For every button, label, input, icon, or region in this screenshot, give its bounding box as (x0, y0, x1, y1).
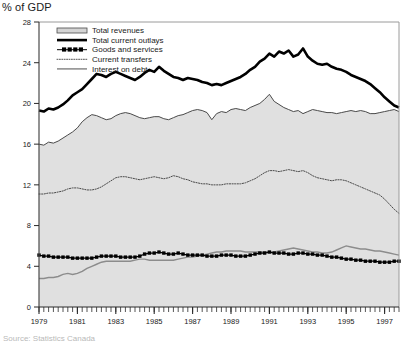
svg-text:8: 8 (27, 221, 31, 230)
legend-item-label: Current transfers (92, 55, 152, 64)
legend-item-label: Goods and services (92, 45, 163, 54)
legend-item-label: Interest on debt (92, 65, 148, 74)
svg-text:16: 16 (23, 140, 31, 149)
svg-text:1979: 1979 (31, 317, 48, 326)
svg-text:1981: 1981 (69, 317, 86, 326)
svg-text:1983: 1983 (107, 317, 124, 326)
svg-text:1985: 1985 (146, 317, 163, 326)
svg-text:0: 0 (27, 303, 31, 312)
svg-text:28: 28 (23, 18, 31, 27)
chart-container: 0481216202428 19791981198319851987198919… (0, 0, 415, 343)
svg-text:4: 4 (27, 262, 31, 271)
series-area-total-revenues (39, 94, 399, 307)
svg-text:1995: 1995 (338, 317, 355, 326)
svg-text:24: 24 (23, 59, 31, 68)
svg-text:1993: 1993 (299, 317, 316, 326)
svg-text:20: 20 (23, 99, 31, 108)
y-axis-ticks: 0481216202428 (23, 18, 39, 312)
legend-item-label: Total current outlays (92, 36, 164, 45)
svg-text:1987: 1987 (184, 317, 201, 326)
source-footnote: Source: Statistics Canada (3, 334, 95, 343)
gdp-line-chart: 0481216202428 19791981198319851987198919… (0, 0, 415, 343)
svg-text:1989: 1989 (223, 317, 240, 326)
x-axis-minor-ticks (39, 307, 399, 312)
svg-text:1997: 1997 (376, 317, 393, 326)
legend-item-label: Total revenues (92, 26, 144, 35)
svg-text:1991: 1991 (261, 317, 278, 326)
svg-text:12: 12 (23, 181, 31, 190)
